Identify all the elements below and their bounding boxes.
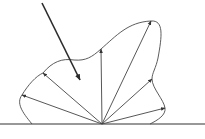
reflected-ray-arrow	[101, 49, 102, 124]
reflectance-diagram	[0, 0, 205, 139]
reflected-ray-arrow	[43, 73, 102, 124]
reflected-ray-arrow	[102, 21, 151, 124]
reflected-ray-arrow	[22, 95, 102, 124]
